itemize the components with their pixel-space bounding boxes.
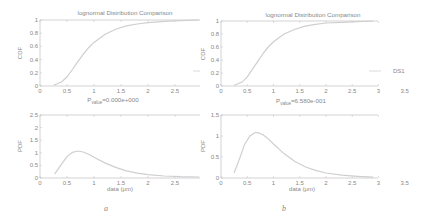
panel-b-cdf-plot: lognormal Distribution Comparison 00.511… — [200, 11, 410, 94]
x-tick-label: 2.5 — [171, 88, 180, 94]
y-tick-label: 1 — [216, 133, 220, 139]
y-tick-label: 1.5 — [211, 112, 220, 118]
figure: lognormal Distribution Comparison 00.511… — [0, 0, 430, 222]
axis-ticks: 00.511.522.533.500.511.5 — [211, 112, 410, 186]
x-tick-label: 1 — [272, 88, 276, 94]
axes-frame — [221, 115, 378, 178]
x-tick-label: 2 — [324, 180, 328, 186]
y-tick-label: 0.8 — [211, 31, 220, 37]
x-tick-label: 0.5 — [63, 88, 72, 94]
x-tick-label: 2 — [146, 180, 150, 186]
y-tick-label: 2 — [35, 125, 39, 131]
x-tick-label: 2.5 — [348, 88, 357, 94]
y-axis-label: PDF — [200, 140, 206, 152]
x-tick-label: 3 — [377, 88, 381, 94]
x-tick-label: 0 — [38, 180, 42, 186]
pdf-curve — [234, 133, 373, 178]
x-tick-label: 3.5 — [401, 180, 410, 186]
x-tick-label: 1.5 — [296, 88, 305, 94]
panel-caption-b: b — [282, 204, 286, 213]
cdf-title: lognormal Distribution Comparison — [266, 11, 361, 18]
y-axis-label: CDF — [200, 48, 206, 61]
panel-a-cdf-plot: lognormal Distribution Comparison 00.511… — [17, 9, 200, 94]
pdf-title: Pvalue=0.000e+000 — [87, 96, 139, 105]
x-tick-label: 0.5 — [243, 88, 252, 94]
y-tick-label: 1 — [216, 18, 220, 24]
y-tick-label: 0.4 — [211, 57, 220, 63]
axes-frame — [40, 20, 200, 86]
pdf-title: Pvalue=6.580e-001 — [276, 97, 326, 106]
x-tick-label: 1 — [92, 88, 96, 94]
y-tick-label: 0.2 — [30, 70, 39, 76]
y-tick-label: 1.5 — [30, 137, 39, 143]
x-tick-label: 3.5 — [401, 88, 410, 94]
y-tick-label: 1 — [35, 17, 39, 23]
y-tick-label: 0.6 — [211, 44, 220, 50]
legend: DS1 — [369, 68, 405, 74]
x-tick-label: 2 — [324, 88, 328, 94]
y-tick-label: 0.5 — [30, 162, 39, 168]
y-tick-label: 0.6 — [30, 43, 39, 49]
x-tick-label: 0 — [38, 88, 42, 94]
x-tick-label: 1 — [92, 180, 96, 186]
axes-frame — [221, 21, 378, 86]
y-tick-label: 1 — [35, 150, 39, 156]
legend-label: DS1 — [393, 68, 405, 74]
y-tick-label: 2.5 — [30, 112, 39, 118]
axis-ticks: 00.511.522.500.20.40.60.81 — [30, 17, 180, 94]
x-tick-label: 3 — [377, 180, 381, 186]
panel-caption-a: a — [104, 204, 108, 213]
x-tick-label: 2 — [146, 88, 150, 94]
x-tick-label: 2.5 — [348, 180, 357, 186]
x-axis-label: data (μm) — [289, 186, 315, 192]
x-tick-label: 2.5 — [171, 180, 180, 186]
y-axis-label: PDF — [17, 140, 23, 152]
cdf-curve — [54, 20, 200, 85]
x-tick-label: 1.5 — [117, 88, 126, 94]
x-tick-label: 0.5 — [243, 180, 252, 186]
y-tick-label: 0.8 — [30, 30, 39, 36]
pdf-curve — [55, 151, 200, 177]
cdf-curve — [234, 21, 373, 85]
cdf-title: lognormal Distribution Comparison — [78, 9, 173, 16]
y-tick-label: 0.5 — [211, 154, 220, 160]
panel-b-pdf-plot: 00.511.522.533.500.511.5 PDF data (μm) — [200, 112, 410, 192]
x-tick-label: 0.5 — [63, 180, 72, 186]
x-tick-label: 0 — [219, 88, 223, 94]
y-tick-label: 0.2 — [211, 70, 220, 76]
y-tick-label: 0.4 — [30, 57, 39, 63]
y-axis-label: CDF — [17, 47, 23, 60]
x-axis-label: data (μm) — [107, 186, 133, 192]
x-tick-label: 0 — [219, 180, 223, 186]
panel-a-pdf-plot: 00.511.522.500.511.522.5 PDF data (μm) — [17, 112, 200, 192]
x-tick-label: 1 — [272, 180, 276, 186]
